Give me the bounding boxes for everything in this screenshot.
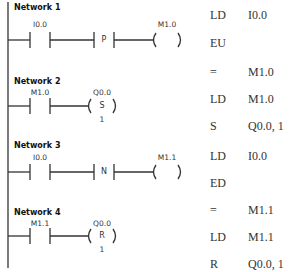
stl-op: S (210, 119, 217, 134)
stl-operand: I0.0 (248, 8, 267, 23)
coil-address: M1.0 (158, 20, 176, 29)
stl-operand: M1.1 (248, 230, 274, 245)
network-4-label: Network 4 (14, 208, 60, 217)
stl-operand: Q0.0, 1 (248, 257, 284, 272)
stl-op: = (210, 203, 217, 218)
reset-coil-type: R (99, 231, 105, 240)
positive-edge-label: P (102, 35, 107, 44)
coil-count: 1 (100, 115, 105, 124)
contact-address: I0.0 (33, 20, 47, 29)
stl-op: = (210, 65, 217, 80)
coil-left (154, 33, 157, 47)
contact-address: I0.0 (33, 153, 47, 162)
network-3-label: Network 3 (14, 141, 60, 150)
coil-address: M1.1 (158, 153, 176, 162)
coil-right (178, 33, 181, 47)
stl-op: LD (210, 230, 226, 245)
stl-op: EU (210, 36, 226, 51)
negative-edge-label: N (101, 167, 107, 176)
stl-operand: I0.0 (248, 149, 267, 164)
contact-address: M1.0 (31, 88, 49, 97)
stl-op: LD (210, 8, 226, 23)
stl-op: R (210, 257, 218, 272)
coil-address: Q0.0 (93, 88, 111, 97)
set-coil-type: S (99, 101, 104, 110)
contact-address: M1.1 (31, 219, 49, 228)
stl-op: LD (210, 92, 226, 107)
stl-op: ED (210, 176, 226, 191)
stl-operand: M1.0 (248, 65, 274, 80)
coil-count: 1 (100, 245, 105, 254)
stl-operand: M1.0 (248, 92, 274, 107)
stl-op: LD (210, 149, 226, 164)
stl-operand: Q0.0, 1 (248, 119, 284, 134)
coil-address: Q0.0 (93, 219, 111, 228)
network-1-label: Network 1 (14, 3, 60, 12)
network-2-label: Network 2 (14, 77, 60, 86)
stl-operand: M1.1 (248, 203, 274, 218)
